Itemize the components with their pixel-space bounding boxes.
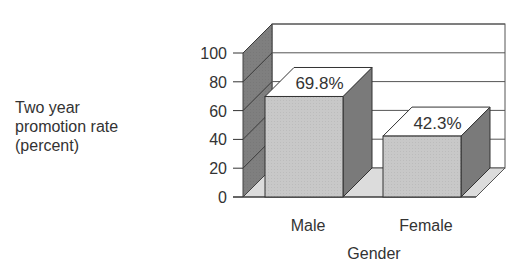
bar-female: 42.3%	[383, 107, 490, 197]
x-tick-label: Male	[291, 217, 326, 234]
x-axis-title: Gender	[347, 245, 401, 262]
x-axis-labels: MaleFemale	[291, 217, 453, 234]
data-label: 42.3%	[413, 114, 461, 133]
y-tick-label: 40	[209, 131, 227, 148]
y-tick-label: 60	[209, 103, 227, 120]
bar-male: 69.8%	[265, 67, 372, 197]
y-tick-label: 20	[209, 160, 227, 177]
y-tick-label: 80	[209, 74, 227, 91]
y-tick-label: 100	[200, 45, 227, 62]
bar-chart-3d: 020406080100 69.8%42.3% MaleFemale Gende…	[0, 0, 524, 276]
data-label: 69.8%	[295, 74, 343, 93]
x-tick-label: Female	[399, 217, 452, 234]
y-tick-label: 0	[218, 189, 227, 206]
